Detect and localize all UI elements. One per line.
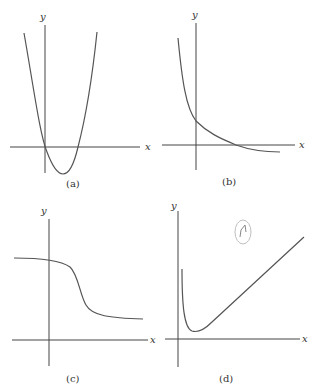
x-label-b: x [299,139,305,150]
caption-d: (d) [219,373,233,384]
x-label-d: x [302,333,308,344]
figure-canvas: y x (a) y x (b) y x (c) y x (d) [0,0,314,392]
y-label-a: y [39,11,46,22]
caption-c: (c) [66,373,80,384]
curve-a [24,32,97,174]
y-label-b: y [191,9,198,20]
y-label-d: y [170,200,177,211]
caption-a: (a) [66,178,80,189]
annotation-mark-icon [240,225,246,237]
y-label-c: y [40,205,47,216]
panel-d: y x (d) [165,200,308,384]
handwritten-annotation [235,220,251,244]
panel-b: y x (b) [162,9,305,187]
curve-d [182,237,304,332]
x-label-a: x [145,141,151,152]
panel-c: y x (c) [12,205,156,384]
caption-b: (b) [222,176,236,187]
annotation-circle-icon [235,220,251,244]
curve-c [14,258,143,319]
curve-b [178,38,280,152]
x-label-c: x [150,334,156,345]
panel-a: y x (a) [10,11,151,189]
